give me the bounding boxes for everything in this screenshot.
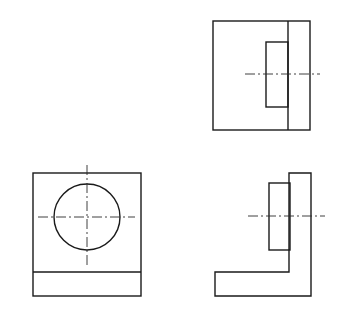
boss-outline (266, 42, 288, 107)
orthographic-drawing (0, 0, 338, 314)
bottom-left-view (33, 165, 141, 296)
bottom-right-view (215, 173, 325, 296)
boss-outline (269, 183, 290, 250)
l-bracket-outline (215, 173, 311, 296)
outer-body (213, 21, 310, 130)
top-right-view (213, 21, 320, 130)
